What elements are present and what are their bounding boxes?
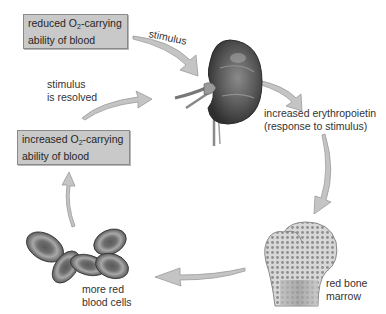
more-red-blood-cells-line2: blood cells: [82, 296, 132, 309]
arrow-cells-to-box: [62, 172, 75, 227]
more-red-blood-cells-label: more red blood cells: [82, 283, 132, 308]
feedback-diagram: reduced O2-carrying ability of blood sti…: [0, 0, 386, 314]
increased-o2-post: -carrying: [83, 133, 124, 145]
red-blood-cells-icon: [21, 224, 132, 288]
erythropoietin-label: increased erythropoietin (response to st…: [264, 107, 376, 132]
arrow-bone-to-cells: [155, 268, 245, 286]
kidney-icon: [175, 40, 262, 146]
more-red-blood-cells-line1: more red: [82, 283, 132, 296]
stimulus-resolved-line2: is resolved: [47, 91, 97, 104]
arrow-epo-to-bone: [314, 134, 331, 214]
red-bone-marrow-line1: red bone: [326, 277, 367, 290]
reduced-o2-post: -carrying: [81, 17, 122, 29]
stimulus-resolved-line1: stimulus: [47, 78, 97, 91]
increased-o2-box: increased O2-carrying ability of blood: [17, 130, 130, 165]
red-bone-marrow-label: red bone marrow: [326, 277, 367, 302]
red-bone-marrow-line2: marrow: [326, 290, 367, 303]
reduced-o2-pre: reduced O: [28, 17, 77, 29]
increased-o2-line1: increased O2-carrying: [22, 133, 124, 150]
erythropoietin-line1: increased erythropoietin: [264, 107, 376, 120]
reduced-o2-line2: ability of blood: [28, 34, 122, 47]
reduced-o2-line1: reduced O2-carrying: [28, 17, 122, 34]
reduced-o2-box: reduced O2-carrying ability of blood: [23, 14, 128, 49]
stimulus-resolved-label: stimulus is resolved: [47, 78, 97, 103]
increased-o2-line2: ability of blood: [22, 150, 124, 163]
increased-o2-pre: increased O: [22, 133, 79, 145]
erythropoietin-line2: (response to stimulus): [264, 120, 376, 133]
